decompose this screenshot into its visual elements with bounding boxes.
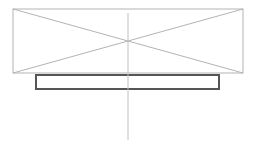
drawing-canvas	[0, 0, 258, 144]
technical-drawing-svg	[0, 0, 258, 144]
